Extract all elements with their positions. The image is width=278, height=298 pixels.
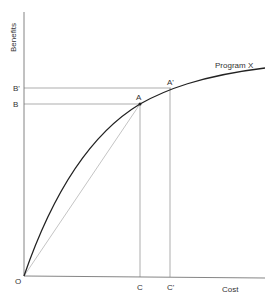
tick-c-prime-label: C' — [167, 283, 175, 292]
y-axis-label: Benefits — [9, 23, 18, 52]
x-axis — [24, 276, 265, 278]
ray-origin-to-a — [24, 104, 140, 276]
tick-b-prime-label: B' — [13, 84, 20, 93]
point-a-label: A — [136, 93, 142, 102]
program-x-curve — [24, 68, 265, 276]
point-a-marker — [139, 103, 142, 106]
benefit-cost-diagram: Benefits Cost O Program X A A' B B' C C' — [0, 0, 278, 298]
tick-c-label: C — [137, 283, 143, 292]
x-axis-label: Cost — [222, 285, 239, 294]
tick-b-label: B — [13, 100, 18, 109]
point-a-prime-label: A' — [167, 78, 174, 87]
origin-label: O — [15, 277, 21, 286]
curve-label: Program X — [215, 61, 254, 70]
